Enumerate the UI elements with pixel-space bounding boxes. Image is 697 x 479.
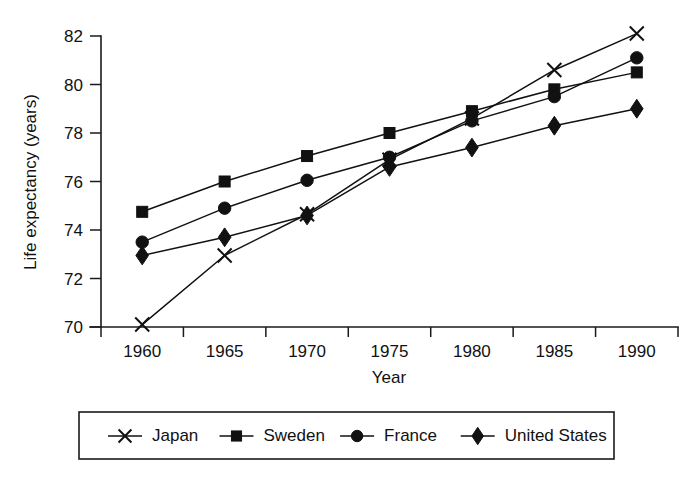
- chart-figure: Life expectancy (years) 70727476788082 1…: [0, 0, 697, 479]
- y-tick-label: 78: [64, 124, 83, 143]
- y-tick-label: 76: [64, 173, 83, 192]
- series-line: [142, 34, 637, 325]
- series-united-states: [136, 99, 643, 265]
- data-point-marker-circle: [351, 430, 362, 441]
- data-point-marker-diamond: [136, 246, 149, 265]
- x-tick-label: 1970: [288, 342, 326, 361]
- data-point-marker-square: [631, 67, 642, 78]
- x-tick-label: 1975: [371, 342, 409, 361]
- legend-label: Japan: [152, 426, 198, 445]
- data-point-marker-circle: [301, 174, 313, 186]
- legend-label: United States: [505, 426, 607, 445]
- x-tick-label: 1965: [206, 342, 244, 361]
- x-axis-ticks: 1960196519701975198019851990: [101, 327, 678, 361]
- data-point-marker-diamond: [466, 138, 479, 157]
- series-france: [136, 52, 643, 249]
- y-tick-label: 74: [64, 221, 83, 240]
- x-tick-label: 1985: [535, 342, 573, 361]
- data-point-marker-square: [302, 151, 313, 162]
- data-point-marker-square: [384, 128, 395, 139]
- series-layer: [135, 27, 644, 332]
- data-point-marker-cross-x: [218, 248, 232, 262]
- data-point-marker-cross-x: [630, 27, 644, 41]
- y-tick-label: 70: [64, 318, 83, 337]
- data-point-marker-diamond: [218, 228, 231, 247]
- series-sweden: [137, 67, 643, 217]
- data-point-marker-cross-x: [547, 63, 561, 77]
- series-japan: [135, 27, 644, 332]
- x-axis-title: Year: [372, 368, 407, 387]
- chart-legend: JapanSwedenFranceUnited States: [79, 412, 614, 459]
- data-point-marker-circle: [631, 52, 643, 64]
- series-line: [142, 58, 637, 242]
- y-axis-ticks: 70727476788082: [64, 27, 101, 337]
- y-tick-label: 80: [64, 76, 83, 95]
- data-point-marker-square: [137, 206, 148, 217]
- data-point-marker-square: [219, 176, 230, 187]
- data-point-marker-diamond: [630, 99, 643, 118]
- x-tick-label: 1990: [618, 342, 656, 361]
- data-point-marker-circle: [466, 115, 478, 127]
- data-point-marker-circle: [548, 90, 560, 102]
- y-tick-label: 72: [64, 270, 83, 289]
- y-axis-title: Life expectancy (years): [21, 94, 40, 270]
- legend-label: France: [384, 426, 437, 445]
- data-point-marker-diamond: [548, 116, 561, 135]
- x-tick-label: 1960: [123, 342, 161, 361]
- data-point-marker-square: [231, 431, 241, 441]
- y-tick-label: 82: [64, 27, 83, 46]
- x-tick-label: 1980: [453, 342, 491, 361]
- data-point-marker-circle: [218, 202, 230, 214]
- line-chart: Life expectancy (years) 70727476788082 1…: [0, 0, 697, 479]
- legend-label: Sweden: [264, 426, 325, 445]
- data-point-marker-cross-x: [135, 318, 149, 332]
